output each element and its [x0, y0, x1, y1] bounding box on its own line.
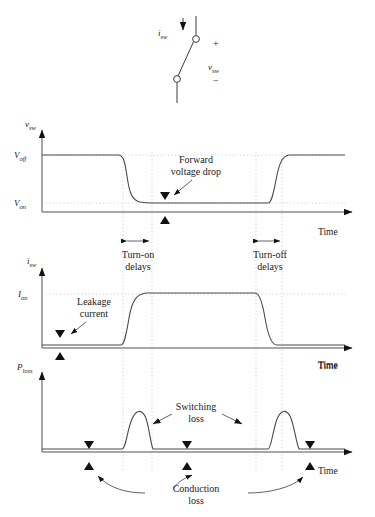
switching-loss-arrow-right	[222, 414, 242, 424]
conduction-loss-annotation: Conduction loss	[84, 441, 315, 506]
svg-text:loss: loss	[188, 413, 204, 424]
marker-triangle-up	[182, 462, 192, 470]
circuit-current-label: isw	[158, 28, 168, 40]
svg-text:voltage drop: voltage drop	[171, 166, 221, 177]
plus-terminal-label: +	[213, 38, 219, 49]
power-time-label: Time	[318, 466, 338, 476]
von-level-label: Von	[14, 198, 26, 210]
marker-triangle-down	[305, 441, 315, 449]
svg-text:Conduction: Conduction	[173, 483, 220, 494]
voltage-time-label: Time	[318, 227, 338, 237]
svg-text:delays: delays	[125, 261, 151, 272]
marker-triangle-up	[84, 462, 94, 470]
conduction-loss-leader-right	[248, 477, 303, 493]
power-loss-plot	[42, 372, 352, 452]
svg-text:Turn-on: Turn-on	[122, 249, 154, 260]
svg-text:Switching: Switching	[176, 401, 217, 412]
switching-loss-arrow-left	[153, 414, 172, 424]
svg-text:Forward: Forward	[179, 154, 213, 165]
marker-triangle-down	[182, 441, 192, 449]
figure-root: isw + vsw − vsw Voff Von Time Forward vo…	[0, 0, 375, 517]
marker-triangle-down	[160, 192, 170, 200]
marker-triangle-down	[84, 441, 94, 449]
circuit-voltage-label: vsw	[208, 62, 220, 74]
minus-terminal-label: −	[213, 75, 219, 86]
leakage-current-annotation: Leakage current	[55, 296, 111, 360]
forward-voltage-drop-arrow	[174, 180, 192, 195]
switching-loss-annotation: Switching loss	[153, 401, 242, 424]
svg-text:loss: loss	[188, 495, 204, 506]
forward-voltage-drop-annotation: Forward voltage drop	[160, 154, 221, 224]
turn-off-delays-interval: Turn-off delays	[253, 241, 288, 272]
voltage-axis-label: vsw	[25, 119, 37, 131]
marker-triangle-up	[160, 216, 170, 224]
marker-triangle-up	[305, 462, 315, 470]
current-axis-label: isw	[27, 256, 37, 268]
switch-symbol	[174, 16, 200, 103]
ion-level-label: Ion	[17, 289, 28, 301]
marker-triangle-down	[55, 330, 65, 338]
power-top-time-label: Time	[318, 361, 338, 371]
svg-text:delays: delays	[257, 261, 283, 272]
waveform-figure: isw + vsw − vsw Voff Von Time Forward vo…	[0, 0, 375, 517]
conduction-loss-leader-left	[98, 476, 145, 493]
marker-triangle-up	[55, 352, 65, 360]
svg-text:current: current	[80, 308, 109, 319]
svg-text:Leakage: Leakage	[77, 296, 111, 307]
svg-text:Turn-off: Turn-off	[253, 249, 288, 260]
voff-level-label: Voff	[14, 150, 28, 162]
power-axis-label: Ploss	[16, 362, 33, 374]
leakage-current-arrow	[71, 322, 86, 334]
turn-on-delays-interval: Turn-on delays	[122, 241, 154, 272]
